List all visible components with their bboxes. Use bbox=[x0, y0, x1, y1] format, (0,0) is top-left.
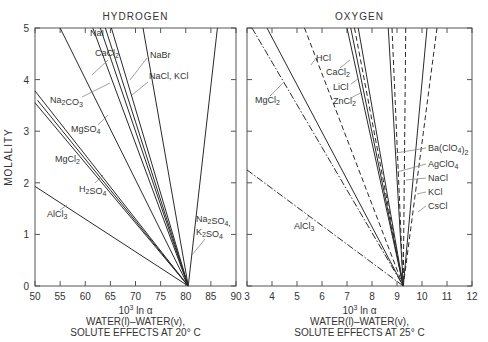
label-cacl2-o: CaCl2 bbox=[326, 67, 350, 78]
label-cscl: CsCl bbox=[428, 201, 448, 211]
x-axis-label-line2: WATER(l)–WATER(v), bbox=[86, 316, 185, 327]
label-mgcl2: MgCl2 bbox=[55, 154, 80, 165]
y-axis-label: MOLALITY bbox=[3, 128, 14, 185]
label-mgcl2-o: MgCl2 bbox=[255, 95, 280, 106]
x-tick-label: 11 bbox=[442, 291, 453, 302]
y-tick-label: 2 bbox=[23, 178, 29, 189]
series-line bbox=[35, 103, 188, 286]
series-line bbox=[100, 28, 188, 286]
label-k2so4: K2SO4 bbox=[196, 227, 223, 240]
leader-line bbox=[130, 58, 147, 80]
x-tick-label: 55 bbox=[55, 291, 67, 302]
x-tick-label: 90 bbox=[230, 291, 242, 302]
leader-line bbox=[396, 148, 426, 153]
x-tick-label: 60 bbox=[80, 291, 92, 302]
x-tick-label: 75 bbox=[155, 291, 167, 302]
label-nacl-kcl: NaCl, KCl bbox=[149, 71, 189, 81]
label-alcl3-o: AlCl3 bbox=[294, 221, 315, 232]
x-tick-label: 65 bbox=[105, 291, 117, 302]
leader-line bbox=[306, 216, 309, 220]
label-zncl2: ZnCl2 bbox=[333, 96, 356, 107]
leader-line bbox=[98, 115, 108, 125]
label-baclo4: Ba(ClO4)2 bbox=[428, 143, 468, 156]
label-nabr: NaBr bbox=[150, 50, 171, 60]
leader-line bbox=[406, 178, 426, 180]
x-tick-label: 5 bbox=[294, 291, 300, 302]
series-line bbox=[392, 28, 403, 286]
panel-title: HYDROGEN bbox=[103, 11, 169, 22]
x-axis-label-line3: SOLUTE EFFECTS AT 25° C bbox=[294, 327, 424, 338]
label-hcl: HCl bbox=[316, 53, 331, 63]
label-licl: LiCl bbox=[333, 82, 349, 92]
series-line bbox=[403, 28, 406, 286]
x-tick-label: 6 bbox=[319, 291, 325, 302]
label-cacl2: CaCl2 bbox=[95, 48, 119, 59]
label-h2so4: H2SO4 bbox=[79, 184, 106, 197]
series-line bbox=[60, 28, 188, 286]
series-line bbox=[247, 170, 403, 286]
panel-title: OXYGEN bbox=[335, 11, 384, 22]
label-nacl-o: NaCl bbox=[428, 173, 448, 183]
series-line bbox=[347, 28, 403, 286]
y-tick-label: 3 bbox=[23, 126, 29, 137]
label-kcl-o: KCl bbox=[428, 187, 443, 197]
x-tick-label: 85 bbox=[205, 291, 217, 302]
series-line bbox=[188, 28, 217, 286]
y-tick-label: 1 bbox=[23, 229, 29, 240]
label-na2so4: Na2SO4, bbox=[196, 214, 231, 228]
x-tick-label: 50 bbox=[29, 291, 41, 302]
y-tick-label: 4 bbox=[23, 75, 29, 86]
leader-line bbox=[397, 164, 426, 172]
series-line bbox=[403, 28, 427, 286]
label-nai: NaI bbox=[90, 28, 104, 38]
label-mgso4: MgSO4 bbox=[71, 124, 101, 135]
label-na2co3: Na2CO3 bbox=[50, 95, 83, 108]
x-axis-label: 103 ln α bbox=[118, 304, 152, 316]
x-tick-label: 4 bbox=[269, 291, 275, 302]
leader-line bbox=[351, 92, 362, 98]
leader-line bbox=[132, 82, 148, 95]
leader-line bbox=[92, 60, 108, 75]
x-axis-label: 103 ln α bbox=[342, 304, 376, 316]
series-line bbox=[35, 186, 188, 286]
label-alcl3: AlCl3 bbox=[47, 209, 68, 220]
leader-line bbox=[351, 79, 358, 84]
x-tick-label: 9 bbox=[394, 291, 400, 302]
label-agclo4: AgClO4 bbox=[428, 159, 459, 170]
x-axis-label-line2: WATER(l)–WATER(v), bbox=[310, 316, 409, 327]
x-tick-label: 80 bbox=[180, 291, 192, 302]
x-tick-label: 12 bbox=[466, 291, 478, 302]
x-tick-label: 7 bbox=[344, 291, 350, 302]
leader-line bbox=[82, 83, 110, 97]
chart-panel-left: HYDROGEN505560657075808590012345103 ln α… bbox=[23, 11, 242, 338]
x-tick-label: 8 bbox=[369, 291, 375, 302]
x-tick-label: 10 bbox=[416, 291, 428, 302]
x-axis-label-line3: SOLUTE EFFECTS AT 20° C bbox=[70, 327, 200, 338]
series-line bbox=[403, 28, 437, 286]
series-line bbox=[38, 100, 189, 286]
leader-line bbox=[270, 83, 283, 96]
chart-figure: HYDROGEN505560657075808590012345103 ln α… bbox=[0, 0, 488, 342]
series-line bbox=[35, 91, 188, 286]
series-line bbox=[105, 28, 188, 286]
leader-line bbox=[418, 206, 426, 212]
y-tick-label: 5 bbox=[23, 23, 29, 34]
leader-line bbox=[192, 239, 205, 255]
x-tick-label: 70 bbox=[130, 291, 142, 302]
leader-line bbox=[417, 192, 426, 194]
series-line bbox=[305, 28, 404, 286]
plot-frame bbox=[247, 28, 472, 286]
y-tick-label: 0 bbox=[23, 281, 29, 292]
x-tick-label: 3 bbox=[244, 291, 250, 302]
